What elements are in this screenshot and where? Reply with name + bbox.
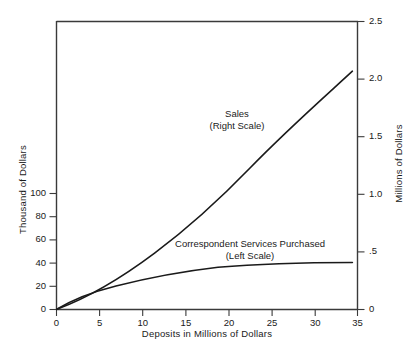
y-axis-left-tick-label: 100 bbox=[20, 187, 46, 198]
axis-right-ticks bbox=[358, 22, 365, 310]
y-axis-left-tick-label: 0 bbox=[20, 303, 46, 314]
x-axis-tick-label: 20 bbox=[217, 317, 241, 328]
y-axis-left-tick-label: 60 bbox=[20, 233, 46, 244]
series-annotation-csp-name: Correspondent Services Purchased bbox=[152, 238, 348, 250]
y-axis-right-tick-label: .5 bbox=[369, 245, 395, 256]
axis-frame bbox=[57, 21, 359, 310]
y-axis-right-tick-label: 1.0 bbox=[369, 188, 395, 199]
x-axis-tick-label: 15 bbox=[174, 317, 198, 328]
y-axis-left-tick-label: 80 bbox=[20, 210, 46, 221]
x-axis-tick-label: 10 bbox=[131, 317, 155, 328]
y-axis-right-tick-label: 0 bbox=[369, 303, 395, 314]
x-axis-tick-label: 0 bbox=[45, 317, 69, 328]
y-axis-right-title: Millions of Dollars bbox=[393, 99, 404, 229]
axis-bottom-ticks bbox=[57, 310, 358, 317]
y-axis-left-tick-label: 20 bbox=[20, 280, 46, 291]
x-axis-title: Deposits in Millions of Dollars bbox=[56, 328, 358, 339]
series-annotation-sales-name: Sales bbox=[182, 108, 292, 120]
y-axis-right-tick-label: 1.5 bbox=[369, 130, 395, 141]
series-annotation-csp-scale: (Left Scale) bbox=[152, 250, 348, 262]
y-axis-right-tick-label: 2.0 bbox=[369, 72, 395, 83]
chart-plot-area bbox=[0, 0, 420, 352]
series-line-sales bbox=[57, 71, 353, 309]
axis-left-ticks bbox=[50, 194, 57, 310]
x-axis-tick-label: 5 bbox=[88, 317, 112, 328]
series-annotation-correspondent-services: Correspondent Services Purchased (Left S… bbox=[152, 238, 348, 262]
y-axis-right-tick-label: 2.5 bbox=[369, 15, 395, 26]
x-axis-tick-label: 35 bbox=[346, 317, 370, 328]
y-axis-left-tick-label: 40 bbox=[20, 257, 46, 268]
x-axis-tick-label: 30 bbox=[303, 317, 327, 328]
x-axis-tick-label: 25 bbox=[260, 317, 284, 328]
series-annotation-sales: Sales (Right Scale) bbox=[182, 108, 292, 132]
series-line-correspondent-services bbox=[57, 263, 353, 310]
series-annotation-sales-scale: (Right Scale) bbox=[182, 120, 292, 132]
chart-figure: Thousand of Dollars Millions of Dollars … bbox=[0, 0, 420, 352]
